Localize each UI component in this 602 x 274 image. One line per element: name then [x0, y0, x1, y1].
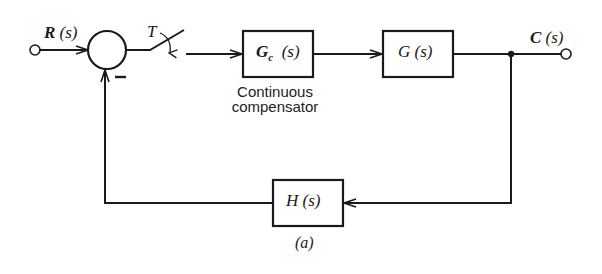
compensator-label: Gc (s) [256, 42, 300, 63]
input-terminal [30, 45, 40, 55]
input-label: R (s) [44, 23, 78, 43]
figure-label: (a) [295, 234, 314, 252]
summing-junction [88, 31, 126, 69]
output-terminal [561, 49, 571, 59]
compensator-caption: Continuous compensator [218, 84, 332, 114]
sampler-label: T [147, 22, 156, 42]
output-label: C (s) [530, 28, 564, 48]
plant-label: G (s) [398, 42, 432, 62]
compensator-caption-line2: compensator [218, 99, 332, 114]
block-diagram-canvas [0, 0, 602, 274]
compensator-caption-line1: Continuous [218, 84, 332, 99]
feedback-label: H (s) [286, 191, 320, 211]
